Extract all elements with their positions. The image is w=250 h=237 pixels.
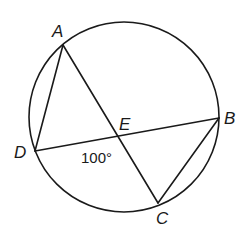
segment-AC bbox=[63, 45, 158, 203]
angle-label-100: 100° bbox=[81, 149, 112, 166]
label-point-C: C bbox=[156, 209, 169, 228]
segment-BC bbox=[158, 118, 219, 203]
segment-AD bbox=[35, 45, 63, 151]
label-point-A: A bbox=[51, 22, 63, 41]
geometry-diagram: A B C D E 100° bbox=[0, 0, 250, 237]
label-point-E: E bbox=[119, 115, 131, 134]
label-point-D: D bbox=[14, 143, 26, 162]
label-point-B: B bbox=[224, 109, 235, 128]
